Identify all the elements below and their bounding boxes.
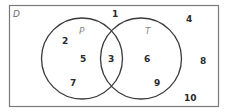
element-outside: 1: [112, 9, 118, 19]
element-t-only: 9: [154, 78, 160, 88]
element-p-only: 2: [62, 36, 68, 46]
set-t-label: T: [145, 26, 152, 36]
element-outside: 4: [186, 14, 192, 24]
universal-set-label: D: [13, 9, 20, 19]
element-outside: 8: [200, 56, 206, 66]
set-p-label: P: [79, 26, 85, 36]
element-intersection: 3: [108, 54, 114, 64]
element-p-only: 7: [70, 78, 76, 88]
element-t-only: 6: [144, 54, 150, 64]
element-p-only: 5: [80, 54, 86, 64]
venn-diagram: D P T 2 5 7 3 6 9 1 4 8 10: [0, 0, 225, 112]
element-outside: 10: [184, 93, 197, 103]
